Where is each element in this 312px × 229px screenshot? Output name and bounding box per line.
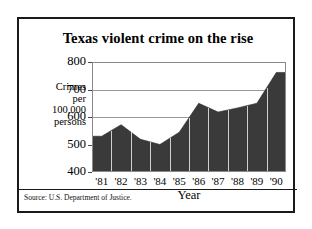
x-tick-label-87: '87 xyxy=(208,175,228,187)
y-tick-label-400: 400 xyxy=(52,165,86,177)
x-tick-label-86: '86 xyxy=(189,175,209,187)
chart-title: Texas violent crime on the rise xyxy=(19,30,297,47)
x-tick-label-81: '81 xyxy=(92,175,112,187)
y-tick-label-600: 600 xyxy=(52,110,86,122)
plot-border xyxy=(92,62,286,172)
x-tick-label-83: '83 xyxy=(131,175,151,187)
x-tick-label-88: '88 xyxy=(228,175,248,187)
y-tick-label-700: 700 xyxy=(52,83,86,95)
source-note: Source: U.S. Department of Justice. xyxy=(24,193,132,202)
x-tick-label-89: '89 xyxy=(247,175,267,187)
source-divider xyxy=(19,189,297,190)
y-tick-label-500: 500 xyxy=(52,138,86,150)
x-tick-label-90: '90 xyxy=(266,175,286,187)
y-tick-mark-400 xyxy=(88,172,92,173)
x-tick-label-84: '84 xyxy=(150,175,170,187)
x-tick-label-85: '85 xyxy=(169,175,189,187)
y-tick-label-800: 800 xyxy=(52,55,86,67)
x-tick-label-82: '82 xyxy=(111,175,131,187)
chart-figure: Texas violent crime on the rise Crimes p… xyxy=(0,0,312,229)
plot-area xyxy=(92,62,286,172)
chart-frame: Texas violent crime on the rise Crimes p… xyxy=(17,17,295,213)
